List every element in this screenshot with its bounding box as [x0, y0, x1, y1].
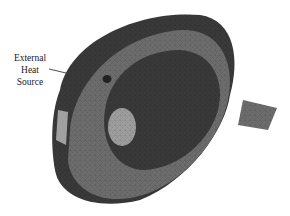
left-strip: [56, 110, 68, 145]
mesh-model-figure: [0, 0, 290, 216]
external-heat-source-label: External Heat Source: [8, 52, 52, 88]
label-line-3: Source: [8, 76, 52, 88]
label-line-1: External: [8, 52, 52, 64]
label-line-2: Heat: [8, 64, 52, 76]
heat-source-marker: [103, 75, 112, 83]
